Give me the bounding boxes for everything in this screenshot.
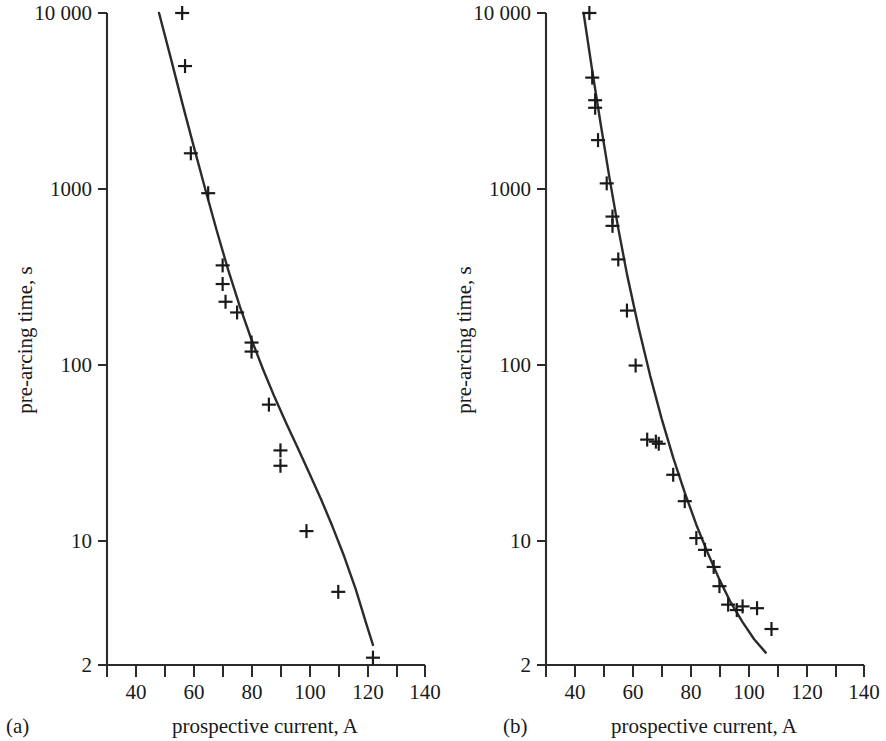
data-point-plus-marker: [273, 459, 287, 473]
x-tick-label-100: 100: [733, 680, 765, 704]
data-point-plus-marker: [689, 531, 703, 545]
figure-container: 10 000 1000 100 10 2 40: [0, 0, 886, 741]
y-tick-label-2: 2: [521, 653, 532, 677]
data-point-plus-marker: [175, 6, 189, 20]
panel-b-y-axis-title: pre-arcing time, s: [452, 266, 476, 414]
x-tick-label-80: 80: [242, 680, 263, 704]
panel-a-fit-curve: [159, 13, 373, 645]
data-point-plus-marker: [698, 543, 712, 557]
y-tick-label-1000: 1000: [50, 177, 92, 201]
data-point-plus-marker: [629, 359, 643, 373]
data-point-plus-marker: [201, 186, 215, 200]
data-point-plus-marker: [620, 304, 634, 318]
y-tick-label-100: 100: [500, 353, 532, 377]
y-tick-label-10: 10: [510, 529, 531, 553]
data-point-plus-marker: [331, 585, 345, 599]
data-point-plus-marker: [764, 622, 778, 636]
fit-curve-path: [159, 13, 373, 645]
panel-a-x-tick-labels: 40 60 80 100 120 140: [126, 680, 441, 704]
data-point-plus-marker: [216, 277, 230, 291]
panel-a-x-axis-title: prospective current, A: [172, 714, 359, 738]
data-point-plus-marker: [230, 305, 244, 319]
data-point-plus-marker: [366, 651, 380, 665]
x-tick-label-100: 100: [294, 680, 326, 704]
data-point-plus-marker: [178, 59, 192, 73]
panel-a: 10 000 1000 100 10 2 40: [0, 0, 443, 741]
x-tick-label-140: 140: [409, 680, 441, 704]
panel-a-x-ticks: [107, 665, 425, 677]
data-point-plus-marker: [245, 345, 259, 359]
panel-b-x-ticks: [546, 665, 864, 677]
y-tick-label-10: 10: [71, 529, 92, 553]
panel-b: 10 000 1000 100 10 2 40: [443, 0, 886, 741]
y-tick-label-10000: 10 000: [473, 1, 531, 25]
data-point-plus-marker: [262, 398, 276, 412]
panel-b-y-ticks: [537, 13, 546, 665]
data-point-plus-marker: [750, 601, 764, 615]
panel-a-axes: [107, 13, 425, 665]
x-tick-label-60: 60: [623, 680, 644, 704]
panel-b-plot: 10 000 1000 100 10 2 40: [443, 0, 886, 741]
panel-b-y-tick-labels: 10 000 1000 100 10 2: [473, 1, 531, 677]
panel-a-plot: 10 000 1000 100 10 2 40: [0, 0, 443, 741]
panel-b-x-axis-title: prospective current, A: [611, 714, 798, 738]
y-tick-label-2: 2: [82, 653, 93, 677]
panel-a-tag: (a): [6, 714, 29, 738]
panel-a-y-axis-title: pre-arcing time, s: [13, 266, 37, 414]
y-tick-label-1000: 1000: [489, 177, 531, 201]
data-point-plus-marker: [585, 71, 599, 85]
panel-a-y-ticks: [98, 13, 107, 665]
x-tick-label-140: 140: [848, 680, 880, 704]
fit-curve-path: [584, 13, 766, 653]
panel-b-x-tick-labels: 40 60 80 100 120 140: [565, 680, 880, 704]
x-tick-label-120: 120: [791, 680, 823, 704]
y-tick-label-100: 100: [61, 353, 93, 377]
data-point-plus-marker: [219, 295, 233, 309]
x-tick-label-40: 40: [126, 680, 147, 704]
data-point-plus-marker: [299, 524, 313, 538]
data-point-plus-marker: [273, 443, 287, 457]
panel-b-fit-curve: [584, 13, 766, 653]
panel-b-data-points: [582, 6, 778, 636]
x-tick-label-60: 60: [184, 680, 205, 704]
x-tick-label-80: 80: [681, 680, 702, 704]
panel-b-tag: (b): [503, 714, 528, 738]
data-point-plus-marker: [649, 435, 663, 449]
data-point-plus-marker: [707, 560, 721, 574]
panel-a-data-points: [175, 6, 380, 665]
x-tick-label-40: 40: [565, 680, 586, 704]
x-tick-label-120: 120: [352, 680, 384, 704]
y-tick-label-10000: 10 000: [34, 1, 92, 25]
panel-a-y-tick-labels: 10 000 1000 100 10 2: [34, 1, 92, 677]
panel-b-axes: [546, 13, 864, 665]
